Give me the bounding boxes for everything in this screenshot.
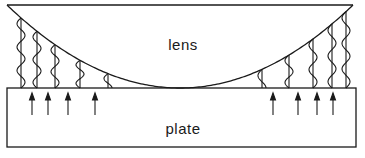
arrow-up-icon — [46, 93, 51, 100]
arrow-up-icon — [30, 93, 35, 100]
arrow-up-icon — [93, 93, 98, 100]
plate-rectangle — [7, 88, 356, 147]
plate-label: plate — [165, 120, 200, 137]
upward-arrows — [30, 93, 336, 115]
arrow-up-icon — [66, 93, 71, 100]
arrow-up-icon — [315, 93, 320, 100]
arrow-up-icon — [296, 93, 301, 100]
arrow-up-icon — [331, 93, 336, 100]
plate — [7, 88, 356, 147]
arrow-up-icon — [271, 93, 276, 100]
lens-label: lens — [168, 36, 198, 53]
